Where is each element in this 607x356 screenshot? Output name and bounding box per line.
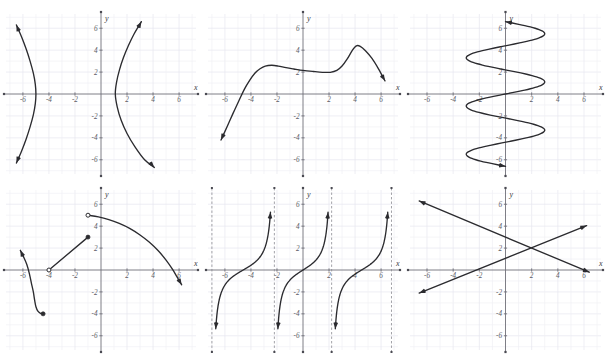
curve-arrowhead-start bbox=[214, 322, 219, 329]
y-tick-label: 2 bbox=[94, 245, 98, 253]
y-tick-label: 4 bbox=[498, 223, 502, 231]
x-tick-label: 2 bbox=[530, 272, 534, 280]
axis-endpoint bbox=[504, 351, 506, 353]
y-tick-label: -2 bbox=[294, 113, 300, 121]
y-tick-label: -6 bbox=[92, 156, 98, 164]
y-tick-label: 4 bbox=[498, 47, 502, 55]
axis-endpoint bbox=[302, 351, 304, 353]
graph-panel-1: -6-4-2246-6-4-2246xy bbox=[0, 8, 202, 180]
y-tick-label: 4 bbox=[296, 223, 300, 231]
y-tick-label: -4 bbox=[496, 310, 502, 318]
right-arc bbox=[88, 215, 182, 285]
axis-endpoint bbox=[205, 269, 207, 271]
x-tick-label: 4 bbox=[556, 96, 560, 104]
y-tick-label: -4 bbox=[294, 134, 300, 142]
y-axis-label: y bbox=[306, 14, 311, 23]
y-tick-label: 4 bbox=[94, 223, 98, 231]
y-tick-label: 2 bbox=[498, 245, 502, 253]
x-axis-label: x bbox=[598, 259, 603, 268]
axis-endpoint bbox=[399, 269, 401, 271]
y-tick-label: 6 bbox=[498, 201, 502, 209]
y-tick-label: -6 bbox=[92, 332, 98, 340]
y-tick-label: 6 bbox=[498, 25, 502, 33]
x-tick-label: 2 bbox=[530, 96, 534, 104]
x-tick-label: -6 bbox=[424, 272, 430, 280]
x-tick-label: 6 bbox=[379, 96, 383, 104]
axis-endpoint bbox=[3, 93, 5, 95]
y-axis-label: y bbox=[104, 14, 109, 23]
y-tick-label: -2 bbox=[92, 113, 98, 121]
y-tick-label: 4 bbox=[94, 47, 98, 55]
asymptote-endpoint bbox=[331, 187, 333, 189]
x-tick-label: 2 bbox=[125, 272, 129, 280]
axis-endpoint bbox=[504, 11, 506, 13]
y-tick-label: -6 bbox=[496, 332, 502, 340]
coordinate-plane-4: -6-4-2246-6-4-2246xy bbox=[0, 184, 202, 356]
curve-arrowhead-start bbox=[419, 201, 425, 205]
curve-arrowhead-end bbox=[385, 212, 390, 219]
y-tick-label: -2 bbox=[294, 289, 300, 297]
x-axis-label: x bbox=[193, 259, 198, 268]
axis-endpoint bbox=[602, 93, 604, 95]
x-tick-label: 2 bbox=[327, 96, 331, 104]
axis-endpoint bbox=[100, 11, 102, 13]
y-tick-label: -4 bbox=[496, 134, 502, 142]
x-axis-label: x bbox=[395, 83, 400, 92]
middle-segment bbox=[49, 237, 88, 270]
y-axis-label: y bbox=[104, 190, 109, 199]
asymptote-endpoint bbox=[273, 187, 275, 189]
x-tick-label: 4 bbox=[556, 272, 560, 280]
closed-point-marker bbox=[41, 312, 45, 316]
right-branch bbox=[115, 22, 154, 168]
curve-arrowhead-end bbox=[580, 226, 586, 230]
axis-endpoint bbox=[407, 93, 409, 95]
axis-endpoint bbox=[100, 351, 102, 353]
y-tick-label: -4 bbox=[92, 310, 98, 318]
x-tick-label: -6 bbox=[222, 96, 228, 104]
axis-endpoint bbox=[197, 269, 199, 271]
asymptote-endpoint bbox=[211, 351, 213, 353]
x-tick-label: 4 bbox=[151, 272, 155, 280]
branch-left bbox=[216, 212, 271, 329]
y-tick-label: 2 bbox=[296, 245, 300, 253]
axis-endpoint bbox=[504, 187, 506, 189]
coordinate-plane-3: -6-4-2246-6-4-2246xy bbox=[404, 8, 607, 180]
x-tick-label: 6 bbox=[177, 96, 181, 104]
x-tick-label: -2 bbox=[274, 96, 280, 104]
y-tick-label: -4 bbox=[294, 310, 300, 318]
axis-endpoint bbox=[302, 175, 304, 177]
curve-arrowhead-start bbox=[136, 22, 141, 28]
x-tick-label: 2 bbox=[125, 96, 129, 104]
graph-panel-6: -6-4-2246-6-4-2246xy bbox=[404, 184, 607, 356]
x-axis-label: x bbox=[193, 83, 198, 92]
graph-panel-3: -6-4-2246-6-4-2246xy bbox=[404, 8, 607, 180]
open-point-marker bbox=[47, 268, 51, 272]
axis-endpoint bbox=[205, 93, 207, 95]
graph-panel-5: -6-4-2246-6-4-2246xy bbox=[202, 184, 404, 356]
axis-endpoint bbox=[399, 93, 401, 95]
y-tick-label: 6 bbox=[94, 25, 98, 33]
axis-endpoint bbox=[302, 187, 304, 189]
x-tick-label: 6 bbox=[379, 272, 383, 280]
y-tick-label: -4 bbox=[92, 134, 98, 142]
coordinate-plane-6: -6-4-2246-6-4-2246xy bbox=[404, 184, 607, 356]
decreasing-line bbox=[419, 201, 589, 272]
y-tick-label: 4 bbox=[296, 47, 300, 55]
asymptote-endpoint bbox=[211, 187, 213, 189]
axis-endpoint bbox=[602, 269, 604, 271]
y-tick-label: 2 bbox=[498, 69, 502, 77]
closed-point-marker bbox=[86, 235, 90, 239]
coordinate-plane-1: -6-4-2246-6-4-2246xy bbox=[0, 8, 202, 180]
y-tick-label: -2 bbox=[496, 289, 502, 297]
axis-endpoint bbox=[302, 11, 304, 13]
axis-endpoint bbox=[504, 175, 506, 177]
x-tick-label: -6 bbox=[424, 96, 430, 104]
graph-panel-4: -6-4-2246-6-4-2246xy bbox=[0, 184, 202, 356]
y-tick-label: 6 bbox=[296, 201, 300, 209]
x-tick-label: -2 bbox=[274, 272, 280, 280]
x-tick-label: -4 bbox=[46, 272, 52, 280]
curve-arrowhead-end bbox=[149, 161, 155, 167]
axis-endpoint bbox=[100, 175, 102, 177]
x-tick-label: 6 bbox=[582, 96, 586, 104]
x-axis-label: x bbox=[598, 83, 603, 92]
